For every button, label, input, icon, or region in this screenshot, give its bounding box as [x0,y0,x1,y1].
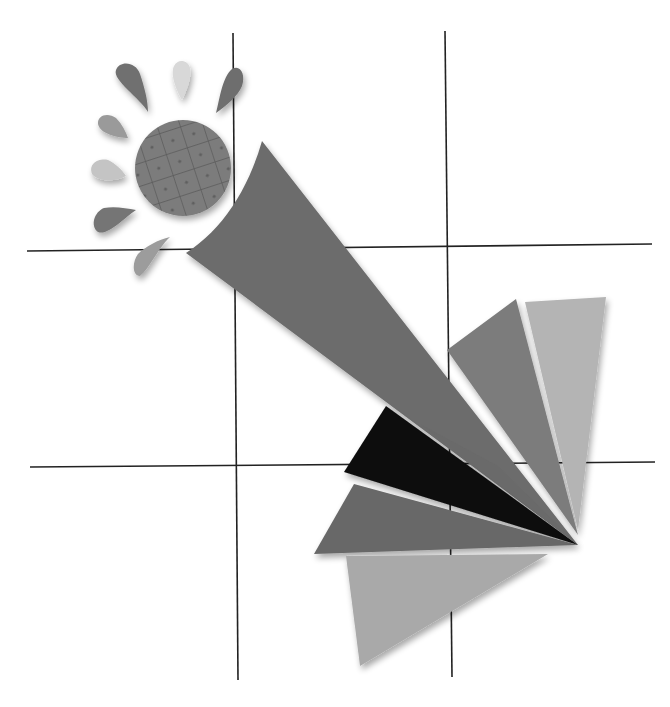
petal-top-icon [173,61,191,100]
petal-left-middle-icon [91,160,126,181]
sun-fan-illustration [0,0,670,707]
grid-line-horizontal-2 [30,462,655,467]
petal-left-lower-icon [94,207,136,232]
petal-bottom-icon [134,237,170,276]
petal-left-upper-icon [98,115,128,138]
sun-disk-icon [135,120,231,216]
grid-line-vertical-1 [233,33,238,680]
blade-light-bottom-icon [346,554,548,666]
petal-top-left-icon [116,64,148,112]
petal-top-right-icon [216,68,243,113]
